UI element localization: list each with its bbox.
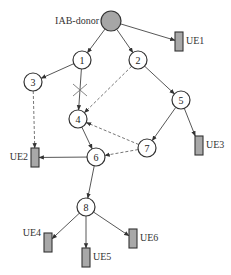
edge-5-to-UE3 (184, 108, 195, 136)
edge-1-to-3 (41, 64, 74, 79)
ue-device-icon (195, 136, 203, 155)
edge-7-to-4 (86, 122, 138, 144)
node-label: 5 (179, 95, 184, 106)
node-label: 7 (145, 143, 150, 154)
nodes-layer: IAB-donor12345678 (24, 11, 190, 216)
node-label: 4 (76, 114, 81, 125)
edge-donor-to-1 (87, 29, 105, 53)
ue-device-icon (44, 233, 52, 252)
ue-label: UE4 (23, 227, 41, 238)
ue-ue3: UE3 (195, 136, 224, 155)
ue-device-icon (129, 229, 137, 248)
ue-ue5: UE5 (82, 248, 111, 267)
iab-topology-diagram: IAB-donor12345678 UE1UE2UE3UE4UE5UE6 (0, 0, 231, 275)
edge-5-to-7 (152, 107, 176, 140)
iab-node-2: 2 (129, 51, 147, 69)
edge-donor-to-2 (117, 29, 133, 52)
ue-label: UE1 (186, 35, 204, 46)
edge-donor-to-UE1 (121, 24, 175, 40)
iab-node-7: 7 (138, 139, 156, 157)
node-label: 6 (94, 152, 99, 163)
iab-donor-label: IAB-donor (55, 15, 100, 26)
edge-2-to-5 (145, 66, 175, 94)
node-label: 1 (80, 55, 85, 66)
edge-4-to-6 (82, 127, 92, 149)
iab-node-8: 8 (77, 198, 95, 216)
ue-device-icon (31, 148, 39, 167)
node-label: 8 (84, 202, 89, 213)
ue-ue2: UE2 (10, 148, 39, 167)
iab-node-5: 5 (172, 91, 190, 109)
ue-label: UE2 (10, 151, 28, 162)
edge-6-to-8 (88, 166, 94, 198)
ue-ue6: UE6 (129, 229, 158, 248)
ues-layer: UE1UE2UE3UE4UE5UE6 (10, 32, 225, 267)
edge-2-to-4 (84, 66, 131, 112)
iab-node-1: 1 (73, 51, 91, 69)
node-label: 3 (31, 77, 36, 88)
ue-ue1: UE1 (175, 32, 204, 51)
iab-donor-node: IAB-donor (55, 11, 121, 31)
node-label: 2 (136, 55, 141, 66)
ue-ue4: UE4 (23, 227, 52, 253)
edge-7-to-6 (105, 150, 138, 156)
iab-node-3: 3 (24, 73, 42, 91)
ue-label: UE3 (206, 139, 224, 150)
ue-label: UE5 (93, 251, 111, 262)
edge-8-to-UE6 (93, 212, 129, 236)
ue-device-icon (82, 248, 90, 267)
edges-layer (33, 24, 195, 248)
iab-node-4: 4 (69, 110, 87, 128)
edge-3-to-UE2 (33, 91, 35, 148)
ue-device-icon (175, 32, 183, 51)
ue-label: UE6 (140, 232, 158, 243)
edge-8-to-UE4 (52, 213, 79, 239)
iab-node-6: 6 (87, 148, 105, 166)
